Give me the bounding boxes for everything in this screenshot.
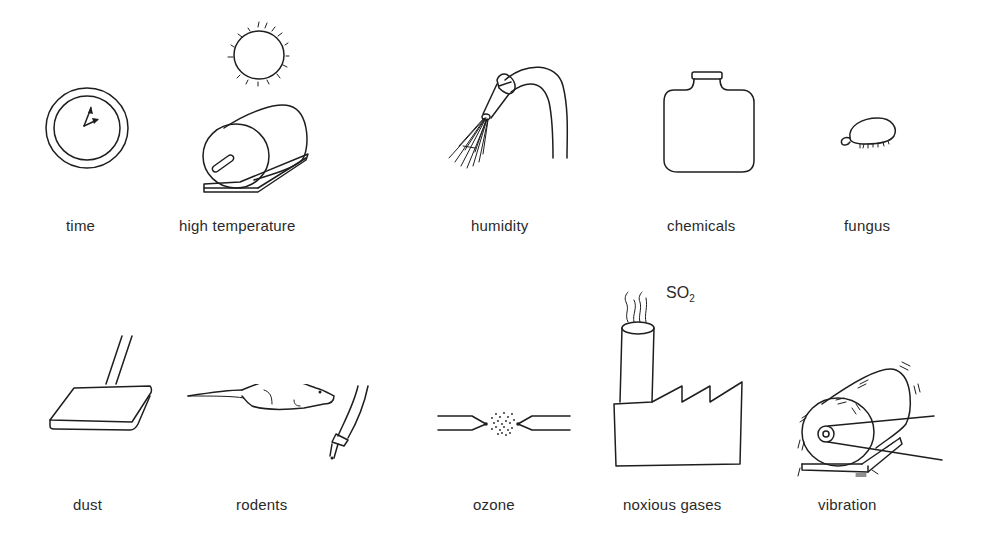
electric-motor-icon: [198, 98, 314, 202]
label-chemicals: chemicals: [667, 217, 736, 234]
vibrating-motor-icon: [796, 360, 968, 480]
rodent-chewing-cable-icon: [184, 384, 380, 470]
chemical-bottle-icon: [662, 68, 762, 176]
label-high-temperature: high temperature: [179, 217, 296, 234]
corona-discharge-icon: [436, 408, 572, 444]
label-fungus: fungus: [844, 217, 890, 234]
fungus-spore-icon: [838, 114, 902, 156]
label-time: time: [66, 217, 95, 234]
label-noxious-gases: noxious gases: [623, 496, 722, 513]
label-ozone: ozone: [473, 496, 515, 513]
dust-mop-icon: [44, 334, 156, 438]
label-rodents: rodents: [236, 496, 287, 513]
label-vibration: vibration: [818, 496, 877, 513]
so2-annotation: SO2: [666, 284, 695, 304]
label-humidity: humidity: [471, 217, 528, 234]
factory-smokestack-icon: [612, 288, 758, 470]
so2-text: SO: [666, 284, 689, 301]
environmental-factors-figure: time high temperature: [0, 0, 986, 543]
water-hose-spray-icon: [445, 62, 585, 172]
clock-icon: [40, 82, 136, 174]
label-dust: dust: [73, 496, 102, 513]
sun-icon: [222, 18, 296, 92]
so2-subscript: 2: [689, 293, 695, 304]
